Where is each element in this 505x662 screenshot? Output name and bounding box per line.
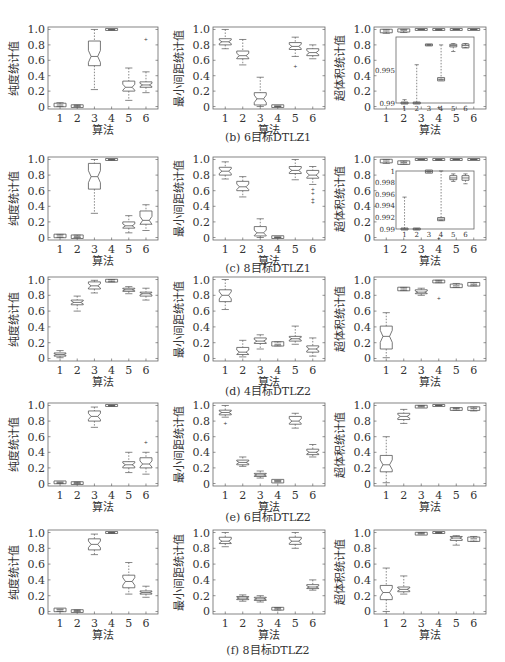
caption-b: (b) 6目标DTLZ1 (168, 128, 368, 144)
svg-text:5: 5 (451, 231, 455, 239)
x-tick-label: 5 (125, 243, 132, 256)
y-tick-label: 0.6 (28, 54, 46, 67)
x-tick-label: 6 (142, 112, 149, 125)
x-tick-label: 6 (142, 489, 149, 502)
svg-text:2: 2 (414, 231, 418, 239)
x-tick-label: 2 (400, 112, 407, 125)
x-axis-label: 算法 (419, 254, 441, 268)
x-tick-label: 5 (453, 489, 460, 502)
y-tick-label: 0.8 (28, 39, 46, 52)
boxplot-panel-r5-c2: 00.20.40.60.81.0123456算法最小间距统计值 (173, 527, 325, 642)
x-tick-label: 5 (125, 489, 132, 502)
y-tick-label: 0.6 (354, 185, 372, 198)
y-tick-label: 0.6 (193, 185, 211, 198)
svg-text:0.994: 0.994 (375, 202, 396, 210)
x-tick-label: 2 (74, 617, 81, 630)
y-tick-label: 0.2 (354, 216, 372, 229)
y-tick-label: 0.6 (193, 54, 211, 67)
y-tick-label: 1.0 (354, 274, 372, 287)
svg-text:4: 4 (439, 231, 444, 239)
y-tick-label: 0.8 (193, 169, 211, 182)
y-tick-label: 0 (203, 352, 210, 365)
x-tick-label: 1 (383, 617, 390, 630)
y-tick-label: 0.6 (354, 54, 372, 67)
y-tick-label: 0.4 (28, 70, 46, 83)
boxplot-panel-r5-c3: 00.20.40.60.81.0123456算法超体积统计值 (333, 527, 486, 642)
y-tick-label: 0 (38, 101, 45, 114)
boxplot-panel-r4-c1: 00.20.40.60.81.0123456算法纯度统计值+ (7, 399, 158, 514)
y-tick-label: 1.0 (28, 274, 46, 287)
caption-e: (e) 6目标DTLZ2 (168, 508, 368, 524)
y-axis-label: 最小间距统计值 (173, 30, 186, 107)
y-tick-label: 0.2 (28, 337, 46, 350)
svg-text:3: 3 (427, 231, 431, 239)
x-tick-label: 2 (74, 489, 81, 502)
y-tick-label: 0.2 (28, 590, 46, 603)
x-axis-label: 算法 (419, 628, 441, 642)
y-tick-label: 0.6 (193, 305, 211, 318)
y-tick-label: 0 (364, 232, 371, 245)
x-tick-label: 6 (309, 489, 316, 502)
plot-frame (48, 27, 158, 109)
y-tick-label: 0.8 (193, 289, 211, 302)
x-tick-label: 5 (453, 243, 460, 256)
y-tick-label: 0.6 (28, 431, 46, 444)
x-tick-label: 6 (470, 364, 477, 377)
y-tick-label: 0.8 (28, 415, 46, 428)
svg-text:1: 1 (402, 105, 406, 113)
x-tick-label: 2 (400, 364, 407, 377)
plot-frame (48, 277, 158, 361)
y-tick-label: 0.4 (28, 446, 46, 459)
y-tick-label: 1.0 (354, 153, 372, 166)
y-tick-label: 0.4 (193, 446, 211, 459)
x-tick-label: 5 (292, 489, 299, 502)
svg-text:+: + (144, 36, 148, 42)
boxplot-panel-r2-c1: 00.20.40.60.81.0123456算法纯度统计值 (7, 153, 158, 268)
svg-text:2: 2 (414, 105, 418, 113)
plot-frame (213, 530, 325, 614)
y-tick-label: 1.0 (28, 527, 46, 540)
y-tick-label: 0.4 (354, 200, 372, 213)
x-tick-label: 5 (125, 112, 132, 125)
boxplot-panel-r4-c3: 00.20.40.60.81.0123456算法超体积统计值 (333, 399, 486, 514)
y-tick-label: 0 (38, 478, 45, 491)
y-tick-label: 1.0 (28, 23, 46, 36)
y-tick-label: 0.8 (354, 289, 372, 302)
y-tick-label: 1.0 (28, 399, 46, 412)
y-tick-label: 0.8 (28, 169, 46, 182)
y-tick-label: 0.4 (28, 200, 46, 213)
y-tick-label: 0.2 (28, 216, 46, 229)
y-tick-label: 1.0 (193, 23, 211, 36)
y-tick-label: 1.0 (193, 399, 211, 412)
x-tick-label: 6 (309, 617, 316, 630)
svg-text:1: 1 (391, 168, 395, 176)
x-tick-label: 1 (222, 489, 229, 502)
x-axis-label: 算法 (419, 123, 441, 137)
y-tick-label: 0.6 (28, 305, 46, 318)
x-tick-label: 5 (453, 112, 460, 125)
plot-frame (48, 530, 158, 614)
y-tick-label: 0.2 (354, 85, 372, 98)
y-tick-label: 0 (203, 232, 210, 245)
y-tick-label: 0.4 (193, 200, 211, 213)
y-tick-label: 0.6 (354, 431, 372, 444)
y-tick-label: 0 (38, 232, 45, 245)
x-tick-label: 2 (400, 243, 407, 256)
x-tick-label: 2 (239, 243, 246, 256)
y-tick-label: 0.2 (193, 85, 211, 98)
x-tick-label: 5 (292, 617, 299, 630)
y-tick-label: 0.8 (354, 415, 372, 428)
y-axis-label: 超体积统计值 (333, 35, 347, 101)
boxplot-panel-r1-c3: 00.20.40.60.81.0123456算法超体积统计值+0.990.995… (333, 23, 486, 137)
svg-text:0.996: 0.996 (375, 191, 396, 199)
x-tick-label: 6 (309, 364, 316, 377)
boxplot-panel-r3-c1: 00.20.40.60.81.0123456算法纯度统计值 (7, 274, 158, 389)
y-tick-label: 0 (364, 478, 371, 491)
x-tick-label: 1 (383, 364, 390, 377)
x-tick-label: 6 (470, 489, 477, 502)
x-tick-label: 1 (57, 489, 64, 502)
y-tick-label: 0 (38, 352, 45, 365)
x-axis-label: 算法 (92, 500, 114, 514)
svg-text:0.998: 0.998 (375, 179, 395, 187)
x-axis-label: 算法 (258, 628, 280, 642)
